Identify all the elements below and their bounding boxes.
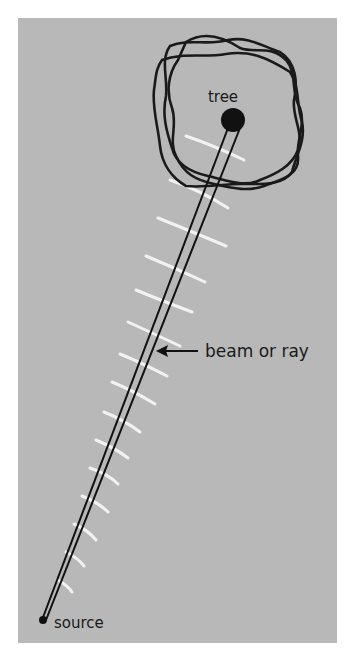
tree-label: tree bbox=[208, 88, 238, 106]
arrow-left-icon bbox=[156, 345, 198, 357]
ray-diagram: tree source beam or ray bbox=[0, 0, 352, 669]
beam-label: beam or ray bbox=[205, 341, 309, 361]
source-label: source bbox=[54, 614, 104, 632]
beam-lines bbox=[42, 128, 240, 620]
tree-dot bbox=[221, 108, 245, 132]
wavefronts bbox=[58, 136, 244, 592]
source-dot bbox=[39, 616, 47, 624]
